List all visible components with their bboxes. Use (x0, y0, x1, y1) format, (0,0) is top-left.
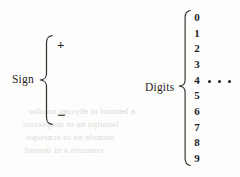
sign-group-label: Sign (12, 74, 34, 86)
sign-members: + − (57, 34, 66, 126)
sign-group: Sign + − (12, 34, 65, 126)
digits-ellipsis-icon (208, 80, 231, 83)
digit-item: 4 (194, 75, 200, 86)
bleed-line: erutcurts a ni demrof (24, 145, 103, 155)
digit-item: 8 (194, 137, 200, 148)
ellipsis-dot (218, 80, 221, 83)
sign-minus-symbol: − (57, 108, 66, 123)
digit-item: 5 (194, 90, 200, 101)
ellipsis-dot (208, 80, 211, 83)
digits-curly-brace-icon (178, 9, 191, 167)
digit-item: 0 (194, 12, 200, 23)
digits-members: 0 1 2 3 4 5 6 7 8 9 (194, 9, 200, 167)
figure-canvas: a lemtzol ot ebycam nmuloc lanoitpo na o… (0, 0, 240, 177)
digit-item: 9 (194, 153, 200, 164)
bleed-line: tnemele na ro ecneuqes (26, 132, 115, 142)
sign-curly-brace-icon (39, 34, 53, 126)
ellipsis-dot (228, 80, 231, 83)
digit-item: 3 (194, 59, 200, 70)
digit-item: 7 (194, 122, 200, 133)
digit-item: 2 (194, 43, 200, 54)
digits-group: Digits 0 1 2 3 4 5 6 7 8 9 (145, 9, 200, 167)
digits-group-label: Digits (145, 82, 174, 94)
digit-item: 1 (194, 28, 200, 39)
sign-plus-symbol: + (57, 38, 64, 51)
digit-item: 6 (194, 106, 200, 117)
